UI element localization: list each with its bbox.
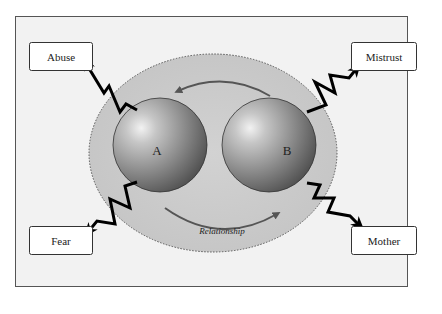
box-abuse: Abuse (30, 43, 93, 71)
box-mother: Mother (352, 227, 417, 255)
box-mistrust-label: Mistrust (366, 51, 403, 63)
relationship-label: Relationship (198, 226, 245, 236)
box-mother-label: Mother (368, 235, 401, 247)
box-fear-label: Fear (51, 235, 71, 247)
box-mistrust: Mistrust (352, 43, 417, 71)
circle-b-label: B (283, 143, 292, 158)
box-fear: Fear (30, 227, 93, 255)
diagram: A B Relationship Abuse Mistrust Fear Mot… (0, 0, 442, 314)
box-abuse-label: Abuse (47, 51, 75, 63)
circle-a-label: A (152, 143, 162, 158)
circle-b (222, 98, 316, 192)
